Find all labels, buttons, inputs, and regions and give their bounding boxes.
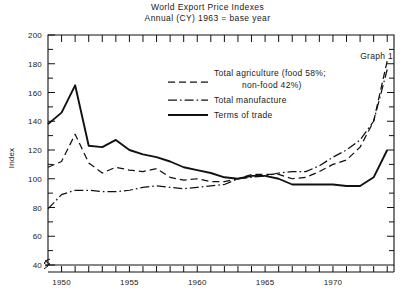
y-tick-label: 200 — [28, 31, 42, 40]
x-tick-label: 1965 — [256, 278, 275, 287]
y-tick-label: 180 — [28, 60, 42, 69]
series-layer — [48, 61, 387, 209]
graph-number-annotation: Graph 1 — [360, 51, 393, 61]
x-tick-label: 1970 — [324, 278, 343, 287]
legend-label-agriculture-line1: Total agriculture (food 58%; — [214, 68, 326, 78]
y-tick-label: 100 — [28, 175, 42, 184]
y-axis-label: Index — [7, 148, 16, 169]
chart-page: World Export Price Indexes Annual (CY) 1… — [0, 0, 415, 298]
y-tick-label: 60 — [33, 232, 43, 241]
axes-layer: 4060801001201401601802001950195519601965… — [28, 31, 394, 287]
y-tick-label: 120 — [28, 146, 42, 155]
y-tick-label: 40 — [33, 261, 43, 270]
x-tick-label: 1955 — [120, 278, 139, 287]
legend-label-agriculture-line2: non-food 42%) — [242, 80, 302, 90]
series-line-1 — [48, 61, 387, 182]
line-chart: 4060801001201401601802001950195519601965… — [0, 0, 415, 298]
x-tick-label: 1960 — [188, 278, 207, 287]
legend-label-manufacture: Total manufacture — [214, 95, 287, 105]
legend-layer: Total agriculture (food 58%;non-food 42%… — [168, 68, 326, 120]
y-tick-label: 160 — [28, 89, 42, 98]
series-line-2 — [48, 70, 387, 209]
legend-label-terms-of-trade: Terms of trade — [214, 110, 273, 120]
x-tick-label: 1950 — [52, 278, 71, 287]
y-tick-label: 80 — [33, 204, 43, 213]
y-tick-label: 140 — [28, 117, 42, 126]
